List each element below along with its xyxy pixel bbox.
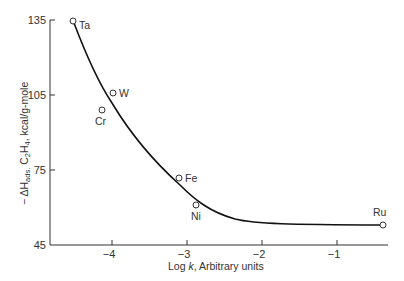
label-cr: Cr (95, 115, 107, 127)
xlabel-log: Log (168, 260, 188, 272)
label-ta: Ta (79, 19, 90, 31)
label-w: W (119, 87, 129, 99)
ylabel-minus-dh: − ΔH (18, 182, 30, 205)
point-cr (99, 107, 105, 113)
x-ticks: −4 −3 −2 −1 (103, 240, 341, 260)
ylabel-h: H (18, 145, 30, 153)
data-points (70, 18, 386, 228)
x-tick-minus3: −3 (178, 248, 191, 260)
ylabel-sub-ads: ads. (23, 168, 32, 182)
ylabel-sub-4: 4 (23, 141, 32, 145)
x-axis-title: Log k, Arbitrary units (168, 260, 264, 272)
point-labels: Ta W Cr Fe Ni Ru (79, 19, 387, 222)
point-ru (380, 222, 386, 228)
fitted-curve (74, 23, 383, 225)
label-ru: Ru (373, 206, 387, 218)
y-tick-45: 45 (34, 239, 46, 251)
y-tick-75: 75 (34, 164, 46, 176)
label-ni: Ni (191, 210, 201, 222)
y-tick-135: 135 (28, 14, 46, 26)
label-fe: Fe (185, 172, 197, 184)
x-tick-minus4: −4 (103, 248, 116, 260)
point-ni (193, 202, 199, 208)
point-fe (176, 175, 182, 181)
x-tick-minus2: −2 (253, 248, 266, 260)
ylabel-units: , kcal/g-mole (18, 82, 30, 142)
ylabel-sub-2: 2 (23, 153, 32, 157)
point-ta (70, 18, 76, 24)
point-w (110, 90, 116, 96)
x-tick-minus1: −1 (328, 248, 341, 260)
xlabel-units: , Arbitrary units (194, 260, 264, 272)
chart-canvas: 135 105 75 45 −4 −3 −2 −1 Ta W Cr Fe Ni … (0, 0, 404, 281)
ylabel-c: C (18, 157, 30, 168)
